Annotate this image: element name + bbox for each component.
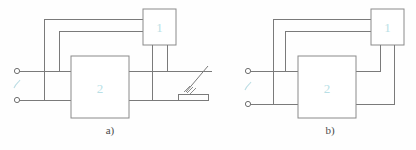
ac-tilde-b [245, 82, 251, 90]
panel-a-switch-wiring [152, 71, 212, 100]
ac-tilde-a [14, 80, 20, 88]
wire-block1-leg-left-b [358, 45, 380, 71]
panel-b-block-1-legs [356, 45, 394, 104]
terminal-bottom-b [245, 101, 250, 106]
panel-b-caption: b) [325, 124, 335, 137]
terminal-top-b [245, 68, 250, 73]
schematic-figure: 1 2 [0, 0, 416, 150]
switch-blade-a [186, 66, 208, 92]
ac-supply-symbol-a [14, 80, 20, 88]
panel-a-block-1: 1 [143, 9, 176, 45]
schematic-canvas: 1 2 [0, 0, 416, 150]
panel-a-block-1-legs [152, 45, 167, 100]
block-1-label-b: 1 [384, 20, 391, 35]
block-2-label-a: 2 [97, 81, 104, 96]
panel-b: 1 2 b) [245, 9, 404, 137]
switch-base-a [178, 94, 208, 100]
panel-a: 1 2 [14, 9, 212, 137]
panel-a-caption: a) [106, 124, 115, 137]
terminal-bottom-a [14, 97, 19, 102]
panel-b-block-2: 2 [298, 56, 356, 118]
ac-supply-symbol-b [245, 82, 251, 90]
panel-b-block-1: 1 [371, 9, 404, 45]
block-1-label-a: 1 [156, 20, 163, 35]
terminal-top-a [14, 68, 19, 73]
wire-block1-leg-right-b [356, 45, 394, 104]
panel-a-block-2: 2 [71, 56, 129, 118]
block-2-label-b: 2 [324, 81, 331, 96]
